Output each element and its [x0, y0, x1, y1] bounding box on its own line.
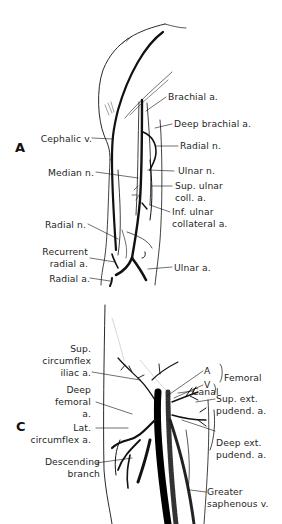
label-sup-circumflex-iliac-artery-line1: Sup.	[70, 343, 91, 355]
label-lat-circumflex-artery-line2: circumflex a.	[31, 434, 92, 446]
label-femoral-canal: Canal	[192, 386, 219, 398]
label-recurrent-radial-artery-line1: Recurrent	[42, 246, 88, 258]
label-sup-circumflex-iliac-artery-line3: iliac a.	[60, 367, 91, 379]
label-deep-femoral-artery-line3: a.	[82, 408, 91, 420]
label-lat-circumflex-artery-line1: Lat.	[73, 422, 91, 434]
label-cephalic-vein: Cephalic v.	[41, 133, 92, 145]
label-sup-circumflex-iliac-artery-line2: circumflex	[42, 355, 91, 367]
label-radial-artery: Radial a.	[49, 273, 90, 285]
label-radial-nerve-upper: Radial n.	[180, 140, 221, 152]
panel-letter-c: C	[16, 419, 26, 434]
label-deep-brachial-artery: Deep brachial a.	[174, 118, 251, 130]
label-descending-branch-line2: branch	[67, 468, 100, 480]
label-greater-saphenous-vein-line1: Greater	[207, 486, 243, 498]
label-deep-ext-pudend-artery-line2: pudend. a.	[216, 449, 266, 461]
label-descending-branch-line1: Descending	[45, 456, 100, 468]
label-radial-nerve-lower: Radial n.	[45, 219, 86, 231]
label-deep-femoral-artery-line2: femoral	[55, 396, 91, 408]
panel-letter-a: A	[15, 140, 25, 155]
label-femoral-canal-a: A	[204, 365, 210, 377]
label-ulnar-artery: Ulnar a.	[174, 262, 211, 274]
label-sup-ext-pudend-artery-line2: pudend. a.	[216, 405, 266, 417]
label-deep-femoral-artery-line1: Deep	[66, 384, 91, 396]
label-recurrent-radial-artery-line2: radial a.	[50, 258, 88, 270]
label-deep-ext-pudend-artery-line1: Deep ext.	[216, 437, 261, 449]
label-inf-ulnar-collateral-artery-line1: Inf. ulnar	[172, 206, 214, 218]
label-inf-ulnar-collateral-artery-line2: collateral a.	[172, 218, 227, 230]
label-femoral: Femoral	[224, 372, 262, 384]
label-median-nerve: Median n.	[48, 167, 94, 179]
label-greater-saphenous-vein-line2: saphenous v.	[207, 498, 269, 510]
label-ulnar-nerve: Ulnar n.	[178, 165, 215, 177]
label-sup-ulnar-coll-artery-line1: Sup. ulnar	[175, 180, 223, 192]
label-brachial-artery: Brachial a.	[168, 91, 218, 103]
label-sup-ulnar-coll-artery-line2: coll. a.	[175, 192, 206, 204]
label-sup-ext-pudend-artery-line1: Sup. ext.	[216, 393, 258, 405]
